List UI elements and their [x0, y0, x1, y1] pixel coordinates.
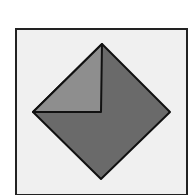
- diagram-canvas: [0, 0, 190, 195]
